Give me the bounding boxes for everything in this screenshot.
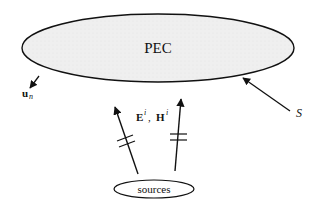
- surface-label: S: [296, 106, 302, 120]
- field-e-superscript: i: [144, 108, 146, 117]
- normal-vector-label: u: [22, 87, 28, 99]
- incident-field-arrow-right: [175, 99, 181, 171]
- field-separator: ,: [148, 111, 151, 123]
- field-e-label: E: [136, 111, 143, 123]
- normal-vector-arrow: [30, 76, 39, 88]
- sources-label: sources: [138, 183, 171, 195]
- field-h-label: H: [156, 111, 165, 123]
- surface-pointer-arrow: [243, 78, 290, 111]
- diagram-canvas: PEC u n S E i , H i sources: [0, 0, 319, 208]
- field-h-superscript: i: [166, 108, 168, 117]
- diagram-svg: PEC u n S E i , H i sources: [0, 0, 319, 208]
- normal-vector-subscript: n: [29, 92, 33, 101]
- pec-label: PEC: [144, 40, 172, 56]
